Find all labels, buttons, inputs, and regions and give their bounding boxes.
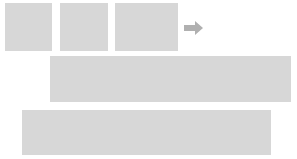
- stitched-panel-2: [22, 110, 271, 155]
- arrow-glyph: [184, 21, 203, 35]
- diagram-canvas: [0, 0, 297, 159]
- right-arrow-icon: [184, 21, 203, 35]
- stitched-row-2: [0, 0, 297, 159]
